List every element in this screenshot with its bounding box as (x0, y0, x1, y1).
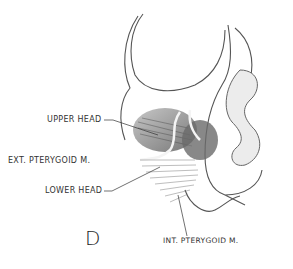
muscle-lower-head (140, 160, 198, 202)
leader-lower-head (104, 167, 160, 191)
leader-int-pterygoid (178, 195, 187, 236)
anatomical-illustration (0, 0, 293, 269)
label-int-pterygoid: INT. PTERYGOID M. (163, 236, 238, 245)
label-lower-head: LOWER HEAD (45, 186, 102, 195)
panel-letter: D (85, 226, 100, 250)
label-ext-pterygoid: EXT. PTERYGOID M. (8, 156, 90, 165)
nasal-concha (226, 70, 260, 165)
label-upper-head: UPPER HEAD (47, 115, 101, 124)
